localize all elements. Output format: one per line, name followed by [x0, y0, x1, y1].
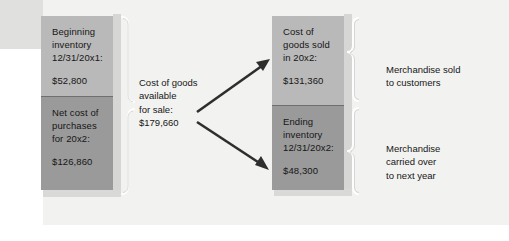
- ending-inventory-line-2: inventory: [283, 128, 344, 141]
- ending-inventory-line-1: Ending: [283, 115, 344, 128]
- left-stack-depth-right: [113, 14, 121, 196]
- cost-of-goods-sold-line-2: goods sold: [283, 38, 344, 51]
- cogafs-amount: $179,660: [139, 116, 219, 129]
- merchandise-sold-label: Merchandise sold to customers: [386, 63, 498, 90]
- left-brace-icon: [122, 17, 134, 194]
- beginning-inventory-amount: $52,800: [52, 74, 113, 87]
- cogafs-line-1: Cost of goods: [139, 76, 219, 89]
- bottom-margin-strip: [0, 225, 509, 241]
- cost-of-goods-sold-line-1: Cost of: [283, 25, 344, 38]
- merchandise-sold-line-1: Merchandise sold: [386, 63, 498, 76]
- net-cost-of-purchases-line-1: Net cost of: [52, 106, 113, 119]
- merchandise-carried-line-2: carried over: [386, 155, 498, 168]
- box-ending-inventory: Ending inventory 12/31/20x2: $48,300: [272, 106, 344, 190]
- cost-of-goods-sold-line-3: in 20x2:: [283, 51, 344, 64]
- cogafs-line-2: available: [139, 89, 219, 102]
- merchandise-sold-line-2: to customers: [386, 76, 498, 89]
- net-cost-of-purchases-line-2: purchases: [52, 119, 113, 132]
- cogafs-line-3: for sale:: [139, 103, 219, 116]
- diagram-canvas: Beginning inventory 12/31/20x1: $52,800 …: [0, 0, 509, 241]
- merchandise-carried-over-label: Merchandise carried over to next year: [386, 142, 498, 182]
- cost-of-goods-available-label: Cost of goods available for sale: $179,6…: [139, 76, 219, 130]
- box-cost-of-goods-sold: Cost of goods sold in 20x2: $131,360: [272, 16, 344, 105]
- box-net-cost-of-purchases: Net cost of purchases for 20x2: $126,860: [41, 97, 113, 190]
- beginning-inventory-line-2: inventory: [52, 38, 113, 51]
- right-stack-depth-bottom: [274, 189, 352, 196]
- ending-inventory-amount: $48,300: [283, 164, 344, 177]
- net-cost-of-purchases-line-3: for 20x2:: [52, 132, 113, 145]
- beginning-inventory-line-3: 12/31/20x1:: [52, 51, 113, 64]
- beginning-inventory-line-1: Beginning: [52, 25, 113, 38]
- box-beginning-inventory: Beginning inventory 12/31/20x1: $52,800: [41, 16, 113, 97]
- left-margin-strip: [0, 49, 43, 225]
- merchandise-carried-line-1: Merchandise: [386, 142, 498, 155]
- corner-band-decoration: [0, 0, 43, 49]
- left-stack-depth-bottom: [43, 190, 121, 197]
- right-stack-depth-right: [344, 14, 352, 195]
- left-brace-shadow: [123, 19, 133, 193]
- cost-of-goods-sold-amount: $131,360: [283, 74, 344, 87]
- net-cost-of-purchases-amount: $126,860: [52, 155, 113, 168]
- merchandise-carried-line-3: to next year: [386, 169, 498, 182]
- ending-inventory-line-3: 12/31/20x2:: [283, 141, 344, 154]
